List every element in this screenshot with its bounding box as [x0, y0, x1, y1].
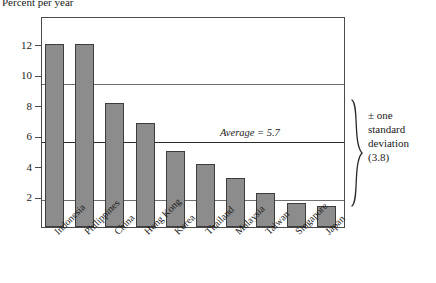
x-axis-labels: IndonesiaPhilippinesChinaHong KongKoreaT… — [41, 229, 345, 283]
y-axis-tick-label: 12 — [21, 38, 32, 53]
standard-deviation-annotation: ± one standard deviation (3.8) — [349, 99, 434, 207]
curly-brace-icon — [349, 99, 365, 207]
y-axis-tick-mark — [35, 76, 42, 77]
y-axis-tick-mark — [35, 137, 42, 138]
plot-area: 24681012 Average = 5.7 — [41, 17, 345, 228]
y-axis-tick-label: 8 — [27, 99, 33, 114]
sd-label-text: ± one standard deviation (3.8) — [368, 108, 409, 164]
sd-label-line-3: deviation — [368, 136, 409, 150]
bar — [136, 123, 155, 227]
y-axis-tick-mark — [35, 106, 42, 107]
bars-group — [42, 18, 344, 227]
bar — [45, 44, 64, 227]
y-axis-tick-label: 2 — [27, 190, 33, 205]
bar — [196, 164, 215, 227]
bar-chart: Percent per year 24681012 Average = 5.7 … — [0, 0, 436, 283]
y-axis-tick-label: 10 — [21, 68, 32, 83]
bar — [75, 44, 94, 227]
y-axis-tick-mark — [35, 45, 42, 46]
sd-label-line-2: standard — [368, 122, 409, 136]
y-axis-tick-label: 6 — [27, 129, 33, 144]
sd-label-line-1: ± one — [368, 108, 409, 122]
y-axis-tick-mark — [35, 198, 42, 199]
y-axis-tick-mark — [35, 167, 42, 168]
sd-label-line-4: (3.8) — [368, 150, 409, 164]
chart-title: Percent per year — [2, 0, 73, 8]
y-axis-tick-label: 4 — [27, 160, 33, 175]
